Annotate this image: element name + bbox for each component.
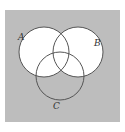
label-a: A [17,32,25,42]
label-b: B [93,38,101,48]
venn-diagram: A B C [0,0,125,132]
label-c: C [53,101,60,111]
